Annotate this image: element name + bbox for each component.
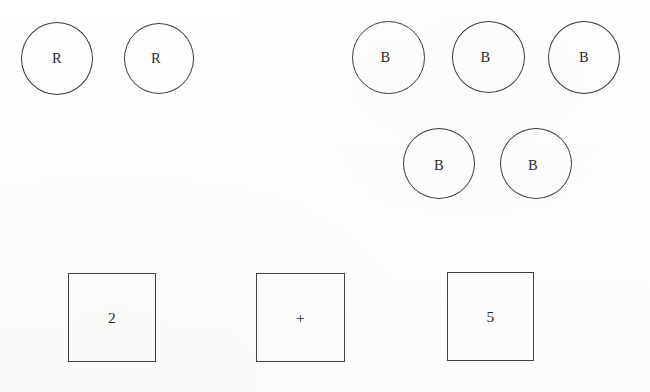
square-operand-1-label: 2	[108, 310, 116, 326]
b-circle-2-label: B	[481, 50, 491, 65]
square-operator-label: +	[296, 310, 305, 326]
square-operator[interactable]: +	[256, 273, 345, 362]
diagram-canvas: R R B B B B B 2 + 5	[0, 0, 650, 392]
r-circle-2-label: R	[151, 51, 161, 66]
b-circle-4-label: B	[434, 158, 444, 173]
square-operand-2[interactable]: 5	[447, 272, 534, 361]
b-circle-5[interactable]: B	[500, 128, 572, 199]
b-circle-1-label: B	[381, 50, 391, 65]
r-circle-2[interactable]: R	[124, 23, 194, 94]
r-circle-1[interactable]: R	[21, 22, 93, 95]
b-circle-3[interactable]: B	[548, 21, 620, 94]
square-operand-2-label: 5	[487, 309, 495, 325]
b-circle-5-label: B	[528, 158, 538, 173]
square-operand-1[interactable]: 2	[68, 273, 156, 362]
r-circle-1-label: R	[52, 51, 62, 66]
b-circle-2[interactable]: B	[452, 21, 525, 93]
b-circle-3-label: B	[579, 50, 589, 65]
b-circle-4[interactable]: B	[403, 128, 475, 199]
b-circle-1[interactable]: B	[352, 21, 425, 94]
